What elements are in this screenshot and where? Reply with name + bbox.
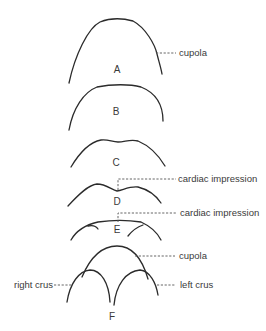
cupola-label-a: cupola	[179, 47, 208, 58]
diaphragm-contour-diagram: cupola A B C cardiac impression D cardia…	[0, 0, 266, 331]
diagram-svg: cupola A B C cardiac impression D cardia…	[0, 0, 266, 331]
cupola-label-f: cupola	[179, 250, 208, 261]
panel-d: cardiac impression D	[68, 173, 257, 207]
contour-f-left-crus	[114, 270, 158, 305]
contour-e-left-inner	[88, 226, 98, 229]
contour-f-cupola	[82, 246, 148, 279]
left-crus-label: left crus	[180, 279, 214, 290]
panel-letter-d: D	[113, 196, 120, 207]
panel-c: C	[71, 140, 165, 168]
cardiac-impression-label-d: cardiac impression	[178, 173, 257, 184]
panel-letter-b: B	[113, 106, 120, 117]
contour-e-right-inner	[128, 225, 143, 236]
cardiac-impression-label-e: cardiac impression	[180, 207, 259, 218]
panel-a: cupola A	[69, 19, 208, 83]
panel-b: B	[69, 85, 163, 130]
right-crus-label: right crus	[14, 279, 53, 290]
panel-e: cardiac impression E	[71, 207, 259, 240]
panel-letter-c: C	[112, 157, 119, 168]
panel-letter-e: E	[114, 224, 121, 235]
panel-f: cupola right crus left crus F	[14, 246, 214, 322]
panel-letter-a: A	[114, 64, 121, 75]
contour-f-right-crus	[67, 270, 110, 302]
panel-letter-f: F	[109, 311, 115, 322]
